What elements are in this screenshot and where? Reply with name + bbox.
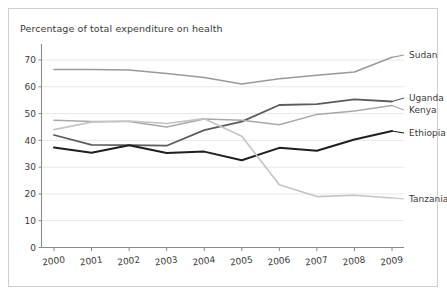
x-axis-tick-label: 2004 [192, 254, 216, 267]
y-axis-tick-label: 10 [25, 216, 37, 226]
series-line-sudan [54, 57, 392, 84]
chart-figure: Percentage of total expenditure on healt… [0, 0, 447, 296]
y-axis-tick-label: 70 [25, 55, 37, 65]
y-axis-tick-labels: 010203040506070 [25, 55, 42, 253]
series-label-group: SudanUgandaKenyaEthiopiaTanzania [392, 50, 447, 204]
x-axis-tick-label: 2006 [267, 254, 291, 267]
series-line-tanzania [54, 119, 392, 198]
series-leader-uganda [392, 98, 404, 102]
x-axis-tick-label: 2000 [42, 254, 66, 267]
y-axis-tick-label: 30 [25, 162, 37, 172]
series-leader-ethiopia [392, 131, 404, 133]
line-chart-plot: 010203040506070 200020012002200320042005… [0, 0, 447, 296]
series-label-uganda: Uganda [409, 93, 444, 103]
series-leader-sudan [392, 55, 404, 57]
x-axis-tick-label: 2003 [154, 254, 178, 267]
series-label-ethiopia: Ethiopia [409, 128, 446, 138]
x-axis-tick-labels: 2000200120022003200420052006200720082009 [42, 254, 404, 267]
x-axis-tick-label: 2008 [342, 254, 366, 267]
x-axis-tick-label: 2001 [79, 254, 103, 267]
y-axis-tick-label: 50 [25, 109, 37, 119]
y-axis-tick-label: 20 [25, 189, 37, 199]
series-label-sudan: Sudan [409, 50, 437, 60]
x-axis-tick-label: 2009 [380, 254, 404, 267]
series-label-kenya: Kenya [409, 105, 437, 115]
series-leader-tanzania [392, 198, 404, 199]
data-series-group [54, 57, 392, 198]
y-axis-tick-label: 60 [25, 82, 37, 92]
series-line-kenya [54, 106, 392, 127]
series-leader-kenya [392, 106, 404, 110]
y-axis-tick-label: 40 [25, 136, 37, 146]
x-axis-tick-label: 2005 [229, 254, 253, 267]
series-label-tanzania: Tanzania [408, 194, 447, 204]
x-axis-tick-label: 2002 [117, 254, 141, 267]
y-axis-tick-label: 0 [30, 243, 36, 253]
x-axis-tick-label: 2007 [304, 254, 328, 267]
